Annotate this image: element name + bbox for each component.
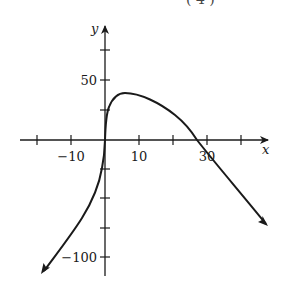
x-axis-label: x (262, 142, 270, 157)
y-axis-label: y (90, 21, 99, 36)
x-axis: −10 10 30 x (20, 135, 270, 164)
y-tick-label-50: 50 (80, 73, 97, 88)
x-tick-label-10: 10 (131, 149, 148, 164)
y-tick-label-neg100: −100 (61, 250, 97, 265)
x-tick-label-neg10: −10 (57, 149, 84, 164)
function-graph: −10 10 30 x 50 −100 y (0, 0, 285, 290)
function-curve (44, 93, 266, 271)
